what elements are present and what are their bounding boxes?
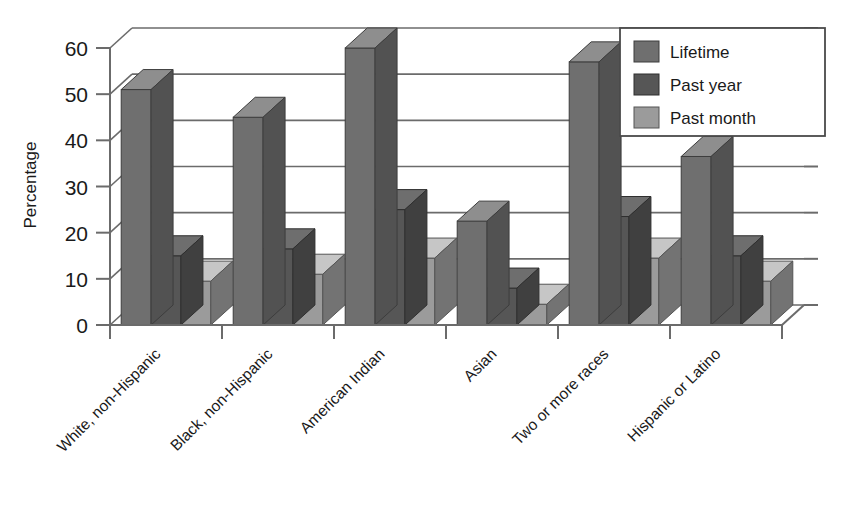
legend-swatch [634,74,659,95]
y-tick-label: 10 [65,268,88,291]
chart-container: 0102030405060 White, non-HispanicBlack, … [0,0,852,506]
legend-label: Past month [670,109,756,128]
y-tick-label: 20 [65,222,88,245]
y-tick-label: 30 [65,176,88,199]
bar [345,28,397,325]
bar [569,42,621,325]
legend: LifetimePast yearPast month [620,28,825,136]
y-tick-label: 40 [65,129,88,152]
legend-label: Lifetime [670,43,730,62]
y-axis-title: Percentage [21,142,40,229]
y-tick-label: 50 [65,83,88,106]
bar [233,97,285,325]
legend-swatch [634,107,659,128]
legend-label: Past year [670,76,742,95]
legend-swatch [634,41,659,62]
y-tick-label: 0 [76,314,88,337]
bar [681,136,733,325]
grouped-bar-chart: 0102030405060 White, non-HispanicBlack, … [0,0,852,506]
y-tick-label: 60 [65,37,88,60]
bar [121,70,173,325]
y-axis-title-group: Percentage [21,142,40,229]
bar [457,201,509,325]
